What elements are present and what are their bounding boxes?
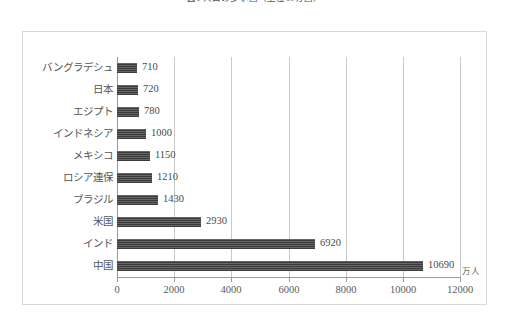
chart-title: 図1 人口の多い国（上位10カ国）: [0, 0, 509, 5]
bar-value-label: 1150: [155, 148, 176, 162]
x-tick-12000: [460, 278, 461, 282]
bar-row: 6920: [0, 233, 509, 255]
x-tick-10000: [403, 278, 404, 282]
x-tick-0: [117, 278, 118, 282]
bar: [117, 195, 158, 205]
x-tick-label: 8000: [336, 284, 357, 295]
bar: [117, 173, 152, 183]
bar-row: 1150: [0, 145, 509, 167]
bar: [117, 63, 137, 73]
bar-row: 2930: [0, 211, 509, 233]
bar: [117, 239, 315, 249]
bar-row: 1000: [0, 123, 509, 145]
bar: [117, 151, 150, 161]
bar-value-label: 1000: [151, 126, 172, 140]
x-tick-label: 0: [114, 284, 119, 295]
bar-value-label: 10690: [428, 258, 454, 272]
bar-value-label: 6920: [320, 236, 341, 250]
x-tick-8000: [346, 278, 347, 282]
bar-row: 10690: [0, 255, 509, 277]
bar-row: 1430: [0, 189, 509, 211]
x-tick-label: 6000: [279, 284, 300, 295]
x-tick-6000: [289, 278, 290, 282]
bar-value-label: 2930: [206, 214, 227, 228]
bar-value-label: 1210: [157, 170, 178, 184]
x-tick-label: 2000: [164, 284, 185, 295]
bar-value-label: 780: [144, 104, 160, 118]
bar-value-label: 1430: [163, 192, 184, 206]
x-tick-label: 4000: [221, 284, 242, 295]
x-tick-2000: [174, 278, 175, 282]
bar-row: 720: [0, 79, 509, 101]
bar-value-label: 720: [143, 82, 159, 96]
bar: [117, 85, 138, 95]
x-tick-label: 12000: [447, 284, 473, 295]
bar-value-label: 710: [142, 60, 158, 74]
unit-label: 万人: [462, 264, 480, 276]
bar: [117, 217, 201, 227]
bar: [117, 129, 146, 139]
bar-row: 1210: [0, 167, 509, 189]
bar-row: 710: [0, 57, 509, 79]
bar-row: 780: [0, 101, 509, 123]
x-tick-4000: [231, 278, 232, 282]
bar: [117, 261, 423, 271]
x-tick-label: 10000: [390, 284, 416, 295]
bar: [117, 107, 139, 117]
